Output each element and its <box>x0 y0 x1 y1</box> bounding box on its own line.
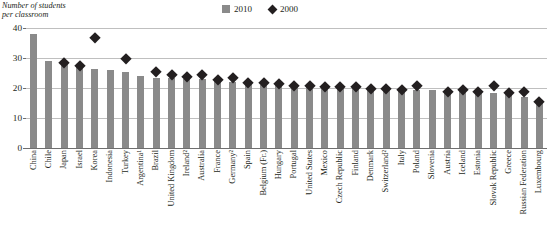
bar-2010[interactable] <box>91 69 98 149</box>
x-axis-category-label: France <box>213 150 221 173</box>
bar-group[interactable] <box>409 28 424 148</box>
bar-2010[interactable] <box>183 79 190 148</box>
x-axis-category-label: Denmark <box>367 150 375 181</box>
bar-group[interactable] <box>225 28 240 148</box>
bar-2010[interactable] <box>367 88 374 148</box>
x-axis-category: United States <box>302 150 317 238</box>
marker-2000[interactable] <box>151 66 162 77</box>
marker-2000[interactable] <box>519 86 530 97</box>
bar-2010[interactable] <box>137 76 144 148</box>
legend-label-2000: 2000 <box>280 4 298 14</box>
bar-group[interactable] <box>164 28 179 148</box>
bar-2010[interactable] <box>459 91 466 148</box>
bar-2010[interactable] <box>45 61 52 148</box>
bar-group[interactable] <box>471 28 486 148</box>
x-axis-category-label: United Kingdom <box>167 150 175 207</box>
marker-2000[interactable] <box>488 80 499 91</box>
bar-group[interactable] <box>210 28 225 148</box>
bar-group[interactable] <box>425 28 440 148</box>
bar-2010[interactable] <box>153 78 160 149</box>
x-axis-category: Japan <box>57 150 72 238</box>
bar-2010[interactable] <box>122 72 129 149</box>
bar-2010[interactable] <box>291 85 298 148</box>
x-axis-category: Estonia <box>471 150 486 238</box>
x-axis-category: Austria <box>440 150 455 238</box>
marker-2000[interactable] <box>90 32 101 43</box>
bar-group[interactable] <box>363 28 378 148</box>
bar-2010[interactable] <box>229 82 236 148</box>
x-axis-category-label: Australia <box>198 150 206 181</box>
x-axis-category-label: Indonesia <box>106 150 114 183</box>
x-axis-category: Hungary <box>271 150 286 238</box>
x-axis-category: Belgium (Fr.) <box>256 150 271 238</box>
bar-2010[interactable] <box>383 90 390 149</box>
bar-group[interactable] <box>486 28 501 148</box>
bar-2010[interactable] <box>260 85 267 148</box>
x-axis-category: Czech Republic <box>333 150 348 238</box>
bar-group[interactable] <box>394 28 409 148</box>
bar-2010[interactable] <box>536 100 543 148</box>
bar-2010[interactable] <box>245 84 252 149</box>
bar-2010[interactable] <box>444 91 451 148</box>
bar-2010[interactable] <box>475 93 482 149</box>
x-axis-category: Iceland <box>455 150 470 238</box>
bar-2010[interactable] <box>337 87 344 149</box>
bar-group[interactable] <box>41 28 56 148</box>
bar-2010[interactable] <box>199 79 206 148</box>
x-axis-category: Chile <box>41 150 56 238</box>
x-axis-category-label: Israel <box>75 150 83 169</box>
bar-2010[interactable] <box>490 93 497 149</box>
bar-2010[interactable] <box>168 78 175 149</box>
bar-2010[interactable] <box>321 87 328 149</box>
x-axis-category: Indonesia <box>103 150 118 238</box>
bar-group[interactable] <box>103 28 118 148</box>
x-axis-category: Mexico <box>317 150 332 238</box>
bar-2010[interactable] <box>521 97 528 148</box>
legend-label-2010: 2010 <box>234 4 252 14</box>
bar-group[interactable] <box>149 28 164 148</box>
bar-group[interactable] <box>57 28 72 148</box>
bar-group[interactable] <box>440 28 455 148</box>
bar-group[interactable] <box>455 28 470 148</box>
bar-group[interactable] <box>271 28 286 148</box>
bar-2010[interactable] <box>275 85 282 148</box>
x-axis-category-label: China <box>29 150 37 170</box>
bar-group[interactable] <box>26 28 41 148</box>
x-axis-category: Australia <box>195 150 210 238</box>
bar-group[interactable] <box>532 28 547 148</box>
x-axis-category-label: Slovenia <box>428 150 436 179</box>
bar-2010[interactable] <box>505 94 512 148</box>
bar-group[interactable] <box>317 28 332 148</box>
bar-group[interactable] <box>179 28 194 148</box>
bar-group[interactable] <box>333 28 348 148</box>
bar-group[interactable] <box>195 28 210 148</box>
bar-group[interactable] <box>241 28 256 148</box>
x-axis-category: Greece <box>501 150 516 238</box>
bar-group[interactable] <box>302 28 317 148</box>
bar-group[interactable] <box>287 28 302 148</box>
bar-2010[interactable] <box>214 81 221 149</box>
bar-2010[interactable] <box>429 90 436 149</box>
bar-group[interactable] <box>256 28 271 148</box>
bar-2010[interactable] <box>398 90 405 149</box>
bar-group[interactable] <box>517 28 532 148</box>
bar-2010[interactable] <box>413 90 420 149</box>
bar-group[interactable] <box>348 28 363 148</box>
x-axis-category-label: Poland <box>413 150 421 173</box>
bar-group[interactable] <box>133 28 148 148</box>
bar-group[interactable] <box>501 28 516 148</box>
diamond-swatch-icon <box>268 4 278 14</box>
bar-group[interactable] <box>118 28 133 148</box>
marker-2000[interactable] <box>120 53 131 64</box>
bar-group[interactable] <box>72 28 87 148</box>
bar-group[interactable] <box>87 28 102 148</box>
bar-group[interactable] <box>379 28 394 148</box>
bar-2010[interactable] <box>61 64 68 148</box>
bar-2010[interactable] <box>30 34 37 148</box>
bar-2010[interactable] <box>107 70 114 148</box>
bar-2010[interactable] <box>76 67 83 148</box>
bars-and-markers <box>26 28 547 148</box>
y-axis-title: Number of students per classroom <box>2 1 66 20</box>
bar-2010[interactable] <box>352 88 359 148</box>
bar-2010[interactable] <box>306 87 313 149</box>
